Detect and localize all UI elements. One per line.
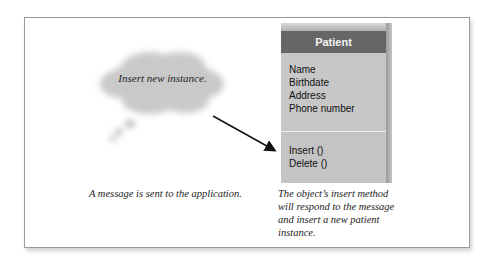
message-cloud: Insert new instance.: [95, 50, 235, 150]
patient-class-box: Patient Name Birthdate Address Phone num…: [279, 23, 394, 185]
attribute-item: Phone number: [289, 102, 355, 115]
method-item: Insert (): [289, 144, 327, 157]
methods-section: Insert () Delete (): [281, 132, 386, 183]
box-top-face: [281, 23, 386, 31]
message-text: Insert new instance.: [95, 72, 230, 84]
caption-right: The object’s insert method will respond …: [278, 187, 403, 239]
method-item: Delete (): [289, 157, 327, 170]
caption-left: A message is sent to the application.: [89, 187, 242, 200]
class-title: Patient: [281, 31, 386, 53]
box-side-face: [386, 23, 392, 183]
attribute-item: Name: [289, 63, 355, 76]
attribute-item: Address: [289, 89, 355, 102]
attribute-item: Birthdate: [289, 76, 355, 89]
cloud-and-arrow-graphics: [0, 0, 492, 263]
attributes-section: Name Birthdate Address Phone number: [281, 53, 386, 132]
